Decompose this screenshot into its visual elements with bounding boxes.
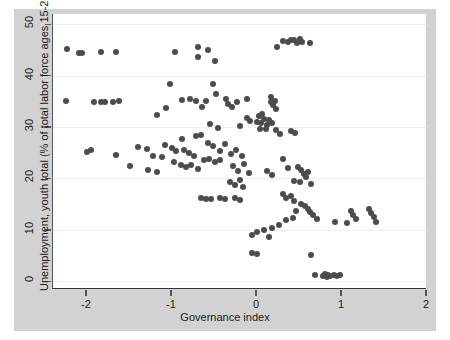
data-point: [113, 152, 119, 158]
data-point: [258, 120, 264, 126]
data-point: [308, 181, 314, 187]
data-point: [188, 162, 194, 168]
data-point: [232, 195, 238, 201]
data-point: [79, 50, 85, 56]
data-point: [259, 111, 265, 117]
data-point: [274, 44, 280, 50]
data-point: [302, 203, 308, 209]
data-point: [247, 118, 253, 124]
data-point: [308, 252, 314, 258]
data-point: [298, 167, 304, 173]
data-point: [312, 272, 318, 278]
data-point: [127, 163, 133, 169]
data-point: [244, 115, 250, 121]
data-point: [348, 208, 354, 214]
data-point: [144, 146, 150, 152]
x-tick-mark: [340, 290, 342, 296]
data-point: [353, 216, 359, 222]
data-point: [225, 101, 231, 107]
gridline: [53, 127, 426, 128]
data-point: [291, 198, 297, 204]
x-tick-mark: [425, 290, 427, 296]
data-point: [288, 37, 294, 43]
y-tick-label: 30: [18, 119, 40, 131]
data-point: [294, 40, 300, 46]
x-tick-mark: [85, 290, 87, 296]
data-point: [273, 127, 279, 133]
x-tick-mark: [170, 290, 172, 296]
data-point: [280, 156, 286, 162]
data-point: [241, 161, 247, 167]
data-point: [373, 219, 379, 225]
gridlines: [53, 14, 426, 288]
data-point: [181, 147, 187, 153]
x-tick-mark: [255, 290, 257, 296]
data-point: [116, 98, 122, 104]
data-point: [288, 193, 294, 199]
data-point: [303, 174, 309, 180]
data-point: [337, 272, 343, 278]
data-point: [217, 157, 223, 163]
data-point: [344, 220, 350, 226]
data-point: [169, 145, 175, 151]
data-point: [237, 177, 243, 183]
data-point: [277, 131, 283, 137]
data-point: [232, 182, 238, 188]
data-point: [213, 91, 219, 97]
data-point: [307, 40, 313, 46]
data-point: [193, 98, 199, 104]
data-point: [228, 151, 234, 157]
data-point: [199, 104, 205, 110]
data-point: [98, 49, 104, 55]
data-point: [269, 172, 275, 178]
data-point: [307, 209, 313, 215]
data-point: [368, 210, 374, 216]
data-point: [285, 39, 291, 45]
data-point: [227, 179, 233, 185]
y-tick-label: 0: [18, 273, 40, 285]
data-point: [222, 196, 228, 202]
data-point: [244, 96, 250, 102]
data-point: [285, 165, 291, 171]
data-point: [254, 251, 260, 257]
data-point: [171, 159, 177, 165]
data-point: [201, 157, 207, 163]
x-tick-label: -2: [71, 298, 101, 310]
data-point: [212, 58, 218, 64]
data-point: [113, 49, 119, 55]
data-point: [186, 150, 192, 156]
data-point: [264, 168, 270, 174]
data-point: [205, 47, 211, 53]
data-point: [266, 234, 272, 240]
data-point: [145, 167, 151, 173]
data-point: [272, 98, 278, 104]
data-point: [270, 102, 276, 108]
data-point: [371, 214, 377, 220]
data-point: [280, 191, 286, 197]
x-tick-label: -1: [156, 298, 186, 310]
gridline: [53, 178, 426, 179]
gridline: [53, 76, 426, 77]
data-point: [195, 44, 201, 50]
data-point: [110, 99, 116, 105]
data-point: [256, 113, 262, 119]
data-point: [322, 271, 328, 277]
data-point: [215, 125, 221, 131]
y-tick-label: 10: [18, 222, 40, 234]
data-point: [203, 98, 209, 104]
data-point: [154, 169, 160, 175]
data-point: [268, 99, 274, 105]
data-point: [320, 273, 326, 279]
data-point: [154, 112, 160, 118]
data-point: [212, 159, 218, 165]
data-point: [350, 212, 356, 218]
data-point: [233, 147, 239, 153]
data-point: [266, 117, 272, 123]
chart-figure: 01020304050 -2-1012 Governance index Une…: [14, 9, 436, 331]
data-point: [331, 272, 337, 278]
data-point: [162, 142, 168, 148]
y-tick-label: 50: [18, 16, 40, 28]
data-point: [298, 201, 304, 207]
data-point: [254, 229, 260, 235]
data-point: [261, 116, 267, 122]
